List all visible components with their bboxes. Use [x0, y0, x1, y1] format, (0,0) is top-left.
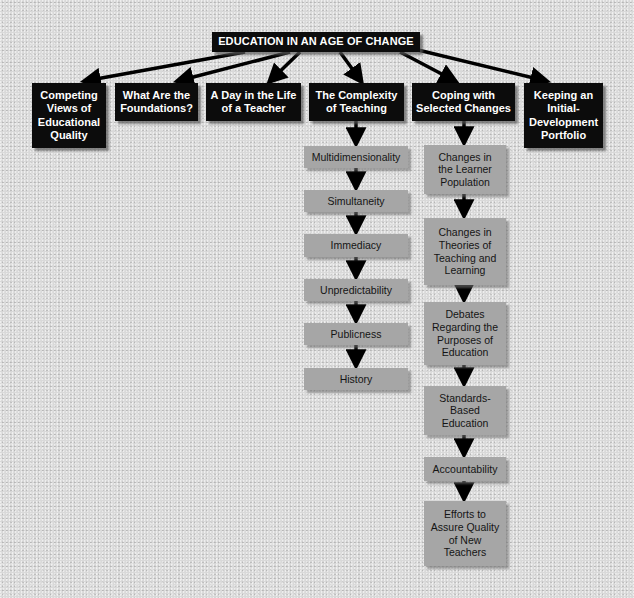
complexity-immediacy: Immediacy: [304, 234, 408, 257]
complexity-publicness: Publicness: [304, 323, 408, 345]
topic-foundations: What Are the Foundations?: [115, 83, 198, 121]
topic-portfolio: Keeping an Initial-Development Portfolio: [524, 83, 603, 148]
complexity-multidimensionality: Multidimensionality: [304, 146, 408, 168]
complexity-unpredictability: Unpredictability: [304, 279, 408, 301]
change-purposes-debates: Debates Regarding the Purposes of Educat…: [424, 302, 506, 365]
topic-coping-with-changes: Coping with Selected Changes: [412, 83, 515, 121]
main-title: EDUCATION IN AN AGE OF CHANGE: [212, 32, 420, 52]
change-theories-teaching: Changes in Theories of Teaching and Lear…: [424, 218, 506, 285]
change-standards-based: Standards-Based Education: [424, 386, 506, 435]
change-new-teacher-quality: Efforts to Assure Quality of New Teacher…: [424, 501, 506, 566]
change-learner-population: Changes in the Learner Population: [424, 145, 506, 194]
complexity-simultaneity: Simultaneity: [304, 190, 408, 212]
change-accountability: Accountability: [424, 457, 506, 481]
complexity-history: History: [304, 368, 408, 390]
topic-day-in-life: A Day in the Life of a Teacher: [206, 83, 301, 121]
topic-competing-views: Competing Views of Educational Quality: [32, 83, 106, 148]
topic-complexity-of-teaching: The Complexity of Teaching: [309, 83, 404, 121]
